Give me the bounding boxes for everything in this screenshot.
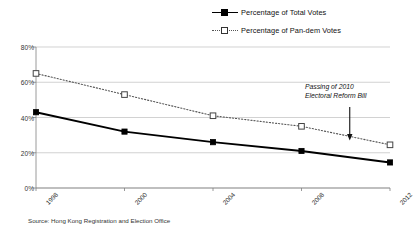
data-point-1-1[interactable] — [122, 92, 128, 98]
x-tick-label-2000: 2000 — [133, 191, 148, 206]
legend-item-pandem-votes[interactable]: Percentage of Pan-dem Votes — [212, 24, 392, 37]
series-line-0 — [36, 112, 390, 162]
y-tick-label-40: 40% — [8, 114, 34, 121]
annotation-line-1: Passing of 2010 — [305, 83, 397, 92]
data-point-1-3[interactable] — [299, 124, 305, 130]
legend-label-pandem-votes: Percentage of Pan-dem Votes — [241, 26, 341, 35]
data-point-0-3[interactable] — [299, 148, 304, 153]
annotation-electoral-reform-bill: Passing of 2010 Electoral Reform Bill — [305, 83, 397, 100]
y-tick-label-20: 20% — [8, 149, 34, 156]
plot-svg — [0, 40, 402, 195]
data-point-0-2[interactable] — [210, 140, 215, 145]
annotation-arrow-icon — [347, 107, 352, 141]
x-tick-label-1998: 1998 — [44, 191, 59, 206]
x-tick-label-2012: 2012 — [398, 191, 413, 206]
legend-key-solid-filled-square-icon — [212, 8, 238, 17]
data-point-0-1[interactable] — [122, 129, 127, 134]
x-tick-label-2004: 2004 — [221, 191, 236, 206]
source-note: Source: Hong Kong Registration and Elect… — [28, 217, 170, 224]
y-axis-tick-labels: 0%20%40%60%80% — [4, 40, 34, 195]
chart-legend: Percentage of Total Votes Percentage of … — [212, 6, 392, 42]
data-point-1-0[interactable] — [33, 71, 39, 77]
legend-item-total-votes[interactable]: Percentage of Total Votes — [212, 6, 392, 19]
x-axis-tick-labels: 19982000200420082012 — [0, 189, 402, 215]
annotation-line-2: Electoral Reform Bill — [305, 92, 397, 101]
data-point-0-0[interactable] — [33, 110, 38, 115]
legend-key-dotted-open-square-icon — [212, 26, 238, 35]
data-point-1-4[interactable] — [387, 142, 393, 148]
data-point-0-4[interactable] — [387, 160, 392, 165]
plot-area — [0, 40, 402, 195]
y-tick-label-60: 60% — [8, 79, 34, 86]
data-point-1-2[interactable] — [210, 113, 216, 119]
legend-label-total-votes: Percentage of Total Votes — [241, 8, 326, 17]
x-tick-label-2008: 2008 — [310, 191, 325, 206]
y-tick-label-80: 80% — [8, 44, 34, 51]
